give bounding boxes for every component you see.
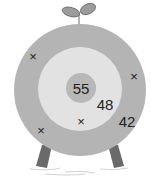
sprout-icon (61, 1, 97, 24)
target-board: 55 48 42 × × × × (0, 0, 158, 184)
outer-ring-score: 42 (119, 114, 136, 129)
hit-mark-icon: × (29, 50, 37, 63)
center-score: 55 (73, 81, 90, 96)
hit-mark-icon: × (77, 115, 85, 128)
middle-ring-score: 48 (97, 97, 114, 112)
hit-mark-icon: × (37, 124, 45, 137)
ground-shadow (30, 168, 128, 175)
hit-mark-icon: × (130, 70, 138, 83)
